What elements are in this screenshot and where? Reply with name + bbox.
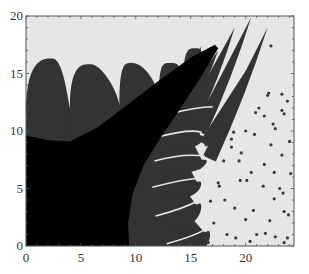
scatter-point bbox=[218, 185, 221, 188]
scatter-point bbox=[262, 185, 265, 188]
scatter-point bbox=[280, 93, 283, 96]
scatter-point bbox=[280, 109, 283, 112]
scatter-point bbox=[249, 240, 252, 243]
x-tick-label: 10 bbox=[129, 250, 142, 265]
scatter-point bbox=[257, 106, 260, 109]
scatter-point bbox=[217, 181, 220, 184]
scatter-point bbox=[286, 100, 289, 103]
scatter-point bbox=[224, 118, 227, 121]
y-tick-label: 20 bbox=[10, 8, 23, 23]
scatter-point bbox=[289, 172, 292, 175]
y-tick-label: 0 bbox=[17, 238, 24, 253]
scatter-point bbox=[225, 233, 228, 236]
scatter-point bbox=[288, 140, 291, 143]
scatter-point bbox=[231, 102, 234, 105]
scatter-point bbox=[269, 44, 272, 47]
scatter-point bbox=[207, 120, 210, 123]
scatter-point bbox=[222, 159, 225, 162]
scatter-point bbox=[252, 209, 255, 212]
scatter-point bbox=[263, 163, 266, 166]
scatter-point bbox=[244, 218, 247, 221]
scatter-point bbox=[238, 159, 241, 162]
y-tick-label: 5 bbox=[17, 181, 24, 196]
scatter-point bbox=[198, 166, 201, 169]
y-tick-label: 15 bbox=[10, 66, 23, 81]
scatter-point bbox=[281, 192, 284, 195]
scatter-point bbox=[267, 91, 270, 94]
basin-plot: 05101520 05101520 bbox=[0, 0, 309, 274]
scatter-point bbox=[263, 114, 266, 117]
scatter-point bbox=[205, 143, 208, 146]
scatter-point bbox=[233, 207, 236, 210]
scatter-point bbox=[255, 233, 258, 236]
scatter-point bbox=[278, 187, 281, 190]
scatter-point bbox=[272, 123, 275, 126]
scatter-point bbox=[269, 143, 272, 146]
scatter-point bbox=[239, 179, 242, 182]
x-tick-label: 5 bbox=[78, 250, 85, 265]
scatter-point bbox=[245, 179, 248, 182]
scatter-point bbox=[274, 235, 277, 238]
x-tick-labels: 05101520 bbox=[23, 250, 252, 265]
scatter-point bbox=[273, 197, 276, 200]
scatter-point bbox=[287, 213, 290, 216]
scatter-point bbox=[274, 127, 277, 130]
scatter-point bbox=[286, 236, 289, 239]
scatter-point bbox=[280, 154, 283, 157]
scatter-point bbox=[283, 241, 286, 244]
scatter-point bbox=[268, 219, 271, 222]
scatter-point bbox=[230, 146, 233, 149]
scatter-point bbox=[212, 221, 215, 224]
scatter-point bbox=[230, 138, 233, 141]
scatter-point bbox=[254, 111, 257, 114]
y-tick-label: 10 bbox=[10, 123, 23, 138]
scatter-point bbox=[234, 236, 237, 239]
x-tick-label: 15 bbox=[184, 250, 197, 265]
scatter-point bbox=[250, 171, 253, 174]
scatter-point bbox=[232, 131, 235, 134]
scatter-point bbox=[223, 198, 226, 201]
x-tick-label: 0 bbox=[23, 250, 30, 265]
scatter-point bbox=[283, 112, 286, 115]
plot-area bbox=[26, 16, 294, 256]
scatter-point bbox=[244, 129, 247, 132]
scatter-point bbox=[209, 200, 212, 203]
scatter-point bbox=[214, 139, 217, 142]
scatter-point bbox=[264, 232, 267, 235]
scatter-point bbox=[207, 241, 210, 244]
y-tick-labels: 05101520 bbox=[10, 8, 23, 253]
scatter-point bbox=[273, 171, 276, 174]
scatter-point bbox=[253, 133, 256, 136]
scatter-point bbox=[283, 210, 286, 213]
scatter-point bbox=[240, 151, 243, 154]
scatter-point bbox=[240, 86, 243, 89]
x-tick-label: 20 bbox=[239, 250, 252, 265]
